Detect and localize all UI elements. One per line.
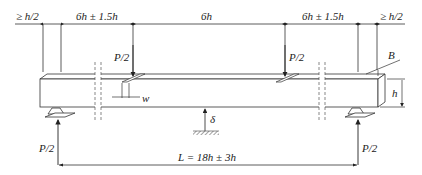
load-right-label: P/2 — [289, 52, 304, 63]
beam-width-label: B — [388, 50, 395, 61]
dim-shear-span-left: 6h ± 1.5h — [76, 11, 118, 22]
reaction-left-label: P/2 — [39, 143, 54, 154]
reaction-right-label: P/2 — [362, 143, 377, 154]
beam-diagram — [0, 0, 422, 175]
beam — [40, 74, 385, 107]
dim-overhang-right: ≥ h/2 — [380, 11, 403, 22]
top-dimension-line — [15, 23, 405, 73]
span-dimension-line — [59, 164, 357, 167]
deflection-label: δ — [210, 114, 215, 125]
beam-height-label: h — [392, 88, 398, 99]
load-arrows — [133, 45, 285, 76]
dim-middle-span: 6h — [201, 11, 212, 22]
dim-overhang-left: ≥ h/2 — [16, 11, 39, 22]
span-label: L = 18h ± 3h — [178, 152, 236, 163]
dim-shear-span-right: 6h ± 1.5h — [302, 11, 344, 22]
plate-width-label: w — [142, 93, 149, 104]
load-left-label: P/2 — [114, 52, 129, 63]
